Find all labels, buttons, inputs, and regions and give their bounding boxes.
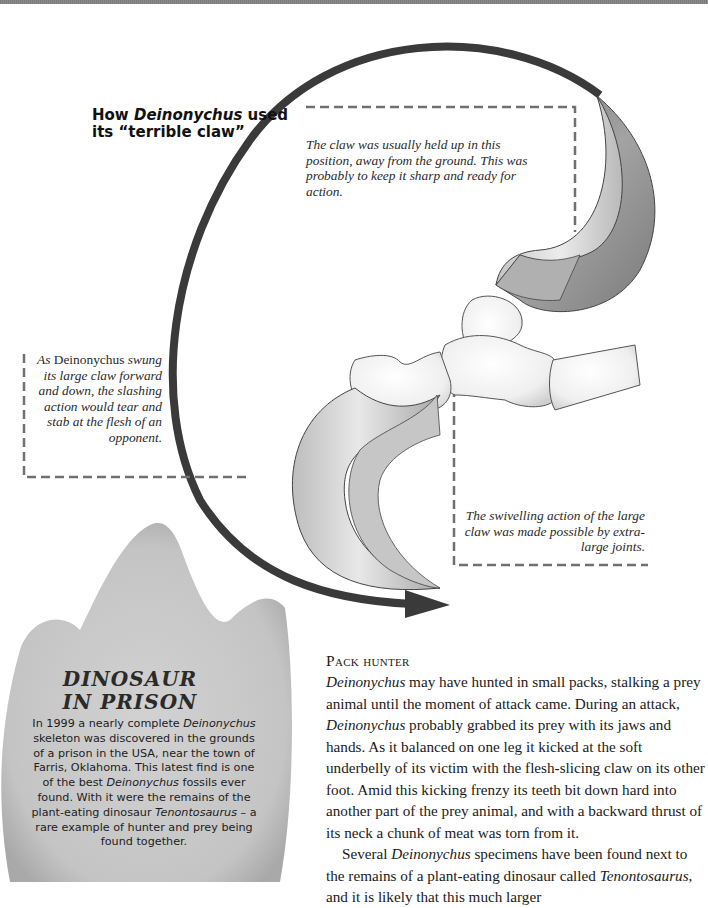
sidebar-box-body: In 1999 a nearly complete Deinonychus sk… <box>28 717 260 850</box>
article-heading: Pack hunter <box>326 650 708 671</box>
caption-swing: As Deinonychus swung its large claw forw… <box>30 352 162 445</box>
toe-bones-illustration <box>350 296 640 415</box>
article-paragraph-1: Deinonychus may have hunted in small pac… <box>326 671 708 843</box>
sidebar-box-title: DINOSAURIN PRISON <box>0 668 260 714</box>
article-paragraph-2: Several Deinonychus specimens have been … <box>326 843 708 908</box>
caption-joints: The swivelling action of the large claw … <box>455 508 645 555</box>
diagram-title: How Deinonychus used its “terrible claw” <box>92 107 292 141</box>
article-pack-hunter: Pack hunter Deinonychus may have hunted … <box>326 650 708 908</box>
lowered-claw-illustration <box>292 388 440 590</box>
caption-raised-claw: The claw was usually held up in this pos… <box>306 137 536 199</box>
